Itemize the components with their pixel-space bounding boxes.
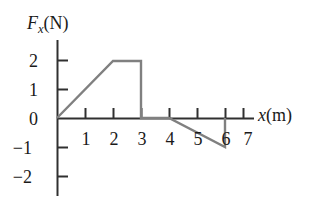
y-axis-symbol: F bbox=[27, 13, 38, 33]
x-tick-label-5: 5 bbox=[187, 130, 209, 148]
x-tick-label-6: 6 bbox=[215, 130, 237, 148]
y-tick-label-minus-2: −2 bbox=[6, 168, 32, 186]
x-tick-label-2: 2 bbox=[103, 130, 125, 148]
x-tick-label-3: 3 bbox=[131, 130, 153, 148]
y-axis-unit: (N) bbox=[44, 13, 69, 33]
x-axis-title: x(m) bbox=[258, 106, 292, 124]
y-axis-title: Fx(N) bbox=[27, 14, 69, 35]
x-axis-unit: (m) bbox=[266, 105, 292, 125]
force-position-graph: Fx(N) x(m) 2 1 0 −1 −2 1 2 3 4 5 6 7 bbox=[0, 0, 333, 205]
y-tick-label-0: 0 bbox=[12, 110, 38, 128]
y-tick-label-minus-1: −1 bbox=[6, 139, 32, 157]
x-axis-symbol: x bbox=[258, 105, 266, 125]
x-tick-label-1: 1 bbox=[75, 130, 97, 148]
x-tick-label-7: 7 bbox=[237, 130, 259, 148]
y-tick-label-2: 2 bbox=[12, 52, 38, 70]
y-tick-label-1: 1 bbox=[12, 81, 38, 99]
x-tick-label-4: 4 bbox=[159, 130, 181, 148]
